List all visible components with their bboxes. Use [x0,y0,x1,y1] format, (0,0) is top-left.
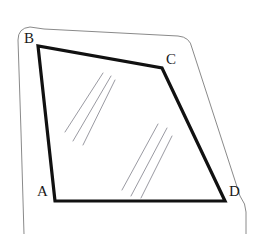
quadrilateral-abcd [38,46,225,201]
figure-canvas: B C A D [0,0,263,234]
vertex-label-d: D [229,184,240,199]
reflection-line [83,80,115,145]
vertex-label-a: A [37,184,48,199]
reflection-line [122,124,158,190]
vertex-label-b: B [24,31,34,46]
reflection-line [73,76,111,141]
reflection-line [131,128,167,196]
reflection-group-lower-right [122,124,172,198]
reflection-line [141,136,172,198]
vertex-label-c: C [166,52,176,67]
reflection-group-upper-left [65,73,115,145]
window-frame-outline [18,27,246,234]
